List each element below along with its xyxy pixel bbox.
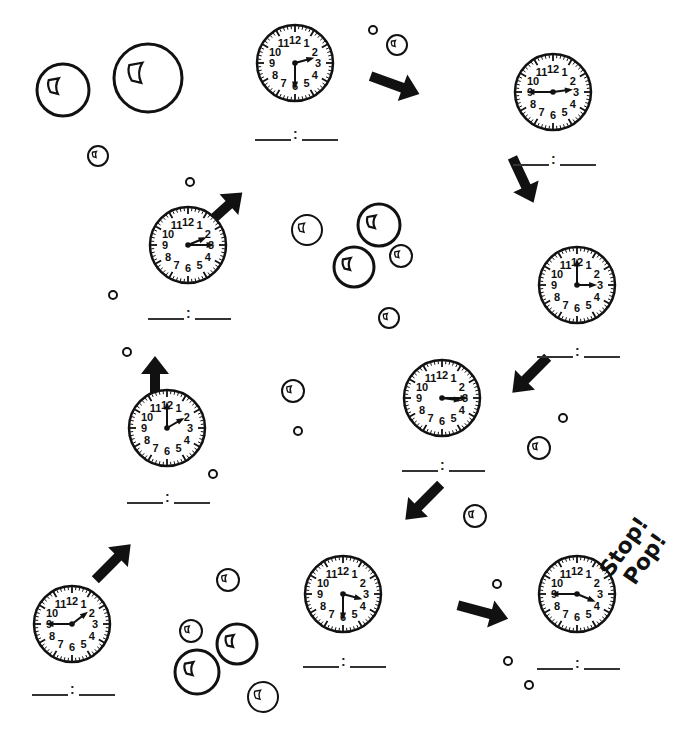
bubble xyxy=(123,348,131,356)
clock-4: 121234567891011 xyxy=(257,25,333,101)
minute-answer-blank[interactable] xyxy=(350,666,386,668)
clock-bubble-worksheet: 1212345678910111212345678910111212345678… xyxy=(0,0,690,750)
bubble xyxy=(369,26,377,34)
clock-number: 4 xyxy=(205,251,212,263)
clock-number: 5 xyxy=(80,638,86,650)
clock-number: 3 xyxy=(92,618,98,630)
minute-answer-blank[interactable] xyxy=(195,318,231,320)
hour-answer-blank[interactable] xyxy=(255,139,291,141)
clock-number: 11 xyxy=(326,568,338,580)
clock-number: 8 xyxy=(419,404,425,416)
clock-number: 11 xyxy=(150,402,162,414)
clock-number: 1 xyxy=(303,37,309,49)
clock-number: 11 xyxy=(560,568,572,580)
clock-number: 2 xyxy=(594,268,600,280)
minute-answer-blank[interactable] xyxy=(302,139,338,141)
clock-number: 1 xyxy=(80,598,86,610)
bubble-highlight-icon xyxy=(469,511,473,518)
clock-number: 4 xyxy=(570,98,577,110)
hour-answer-blank[interactable] xyxy=(537,668,573,670)
bubble xyxy=(504,657,512,665)
minute-answer-blank[interactable] xyxy=(560,164,596,166)
clock-number: 6 xyxy=(439,415,445,427)
clock-number: 11 xyxy=(55,598,67,610)
clock-number: 7 xyxy=(57,638,63,650)
minute-answer-blank[interactable] xyxy=(79,694,115,696)
clock-number: 7 xyxy=(173,259,179,271)
hour-answer-blank[interactable] xyxy=(513,164,549,166)
clock-number: 6 xyxy=(69,641,75,653)
time-colon: : xyxy=(341,654,346,668)
clock-number: 9 xyxy=(269,57,275,69)
clock-number: 11 xyxy=(536,66,548,78)
clock-number: 6 xyxy=(550,109,556,121)
clock-number: 5 xyxy=(351,608,357,620)
minute-answer-blank[interactable] xyxy=(449,470,485,472)
minute-answer-blank[interactable] xyxy=(174,502,210,504)
clock-number: 4 xyxy=(459,404,466,416)
clock-number: 1 xyxy=(561,66,567,78)
clock-8: 121234567891011 xyxy=(305,556,381,632)
time-colon: : xyxy=(293,127,298,141)
clock-number: 6 xyxy=(185,262,191,274)
clock-number: 1 xyxy=(585,568,591,580)
bubble-highlight-icon xyxy=(287,386,291,393)
bubble xyxy=(525,681,533,689)
clock-number: 1 xyxy=(450,372,456,384)
clock-number: 9 xyxy=(141,422,147,434)
bubble xyxy=(493,580,501,588)
bubble-highlight-icon xyxy=(367,216,376,228)
bubble xyxy=(294,427,302,435)
clock-number: 1 xyxy=(585,259,591,271)
clock-number: 5 xyxy=(585,608,591,620)
bubble xyxy=(109,291,117,299)
direction-arrow-icon xyxy=(85,534,140,589)
clock-number: 2 xyxy=(459,381,465,393)
bubble-highlight-icon xyxy=(48,78,59,93)
minute-answer-blank[interactable] xyxy=(584,668,620,670)
clock-number: 1 xyxy=(175,402,181,414)
bubble-highlight-icon xyxy=(383,314,387,320)
clock-number: 6 xyxy=(574,611,580,623)
minute-answer-blank[interactable] xyxy=(584,356,620,358)
clock-number: 5 xyxy=(303,77,309,89)
bubble-highlight-icon xyxy=(129,63,143,83)
clock-number: 8 xyxy=(272,69,278,81)
bubble-highlight-icon xyxy=(533,443,537,450)
hour-answer-blank[interactable] xyxy=(127,502,163,504)
bubble xyxy=(379,308,399,328)
clock-number: 8 xyxy=(320,600,326,612)
clock-number: 5 xyxy=(450,412,456,424)
clock-number: 9 xyxy=(162,239,168,251)
clock-number: 4 xyxy=(184,434,191,446)
clock-number: 7 xyxy=(280,77,286,89)
clock-number: 6 xyxy=(164,445,170,457)
clock-number: 11 xyxy=(278,37,290,49)
hour-answer-blank[interactable] xyxy=(303,666,339,668)
clock-number: 3 xyxy=(187,422,193,434)
worksheet-artwork: 1212345678910111212345678910111212345678… xyxy=(0,0,690,750)
clock-number: 11 xyxy=(560,259,572,271)
clock-number: 8 xyxy=(144,434,150,446)
hour-answer-blank[interactable] xyxy=(32,694,68,696)
clock-number: 5 xyxy=(561,106,567,118)
clock-number: 1 xyxy=(351,568,357,580)
clock-number: 5 xyxy=(196,259,202,271)
clock-number: 12 xyxy=(182,216,194,228)
bubble-highlight-icon xyxy=(395,251,399,258)
bubble xyxy=(114,44,182,112)
clock-6: 121234567891011 xyxy=(539,247,615,323)
bubble-highlight-icon xyxy=(184,662,193,675)
bubble xyxy=(387,35,407,55)
clock-7: 121234567891011 xyxy=(404,360,480,436)
hour-answer-blank[interactable] xyxy=(537,356,573,358)
clock-number: 7 xyxy=(328,608,334,620)
hour-answer-blank[interactable] xyxy=(402,470,438,472)
bubble-highlight-icon xyxy=(185,626,189,633)
hour-answer-blank[interactable] xyxy=(148,318,184,320)
clock-number: 4 xyxy=(594,291,601,303)
clock-number: 2 xyxy=(312,46,318,58)
clock-number: 3 xyxy=(363,588,369,600)
clock-number: 2 xyxy=(184,411,190,423)
bubble-highlight-icon xyxy=(222,575,226,582)
